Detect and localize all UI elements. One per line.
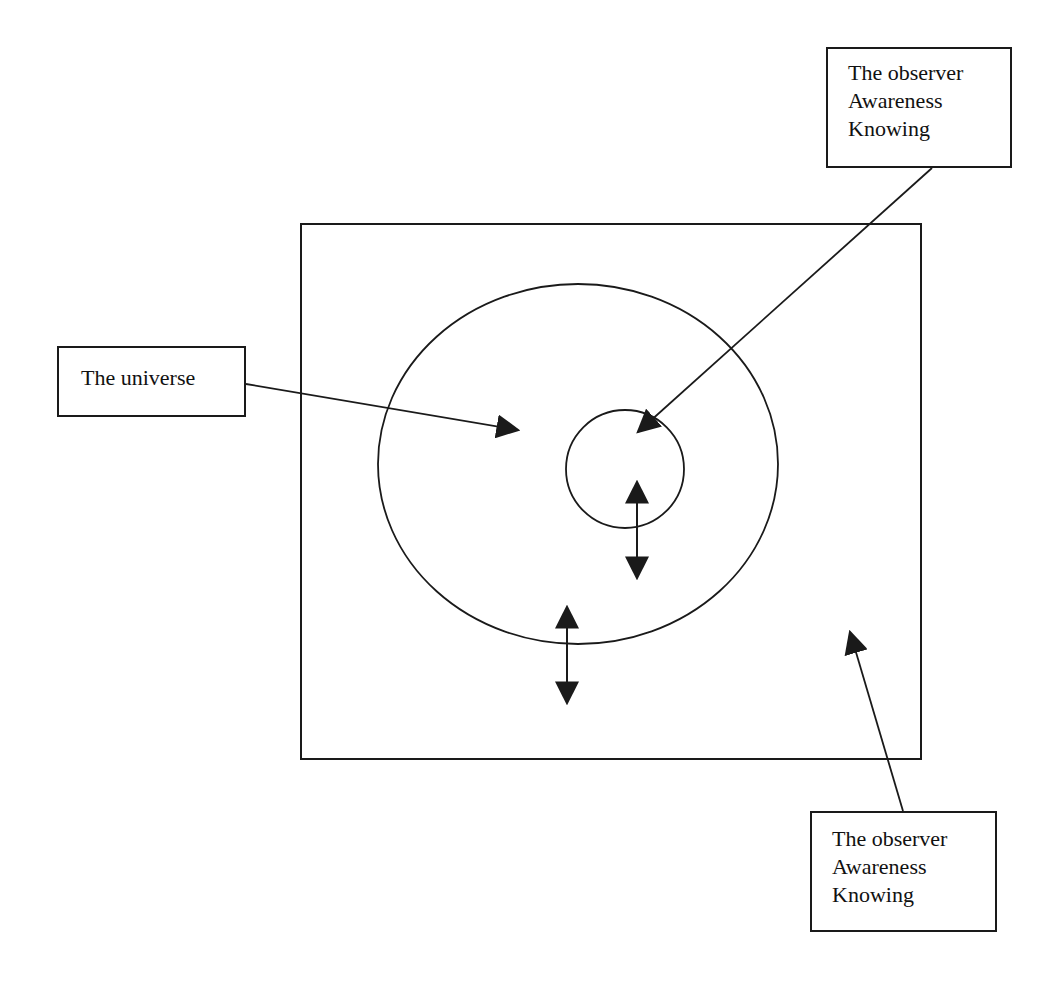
large-ellipse [378,284,778,644]
label-box-observer-bottom: The observer Awareness Knowing [810,811,997,932]
label-box-universe: The universe [57,346,246,417]
label-line: Awareness [848,87,1010,115]
label-box-observer-top: The observer Awareness Knowing [826,47,1012,168]
arrow-observer-top-to-inner-circle [638,168,932,432]
arrow-universe-to-ellipse [246,384,518,430]
label-line: Knowing [848,115,1010,143]
arrow-observer-bottom-to-rectangle [850,632,903,811]
label-line: Awareness [832,853,995,881]
inner-circle [566,410,684,528]
label-line: The universe [81,364,244,392]
label-line: Knowing [832,881,995,909]
outer-rectangle [301,224,921,759]
label-line: The observer [832,825,995,853]
label-line: The observer [848,59,1010,87]
